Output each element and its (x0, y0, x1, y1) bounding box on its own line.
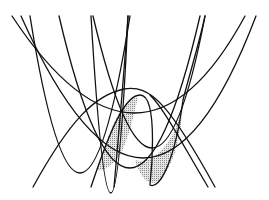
parabola-wide (12, 16, 245, 113)
shade-left (97, 97, 138, 170)
steep-right-2 (114, 16, 128, 187)
shaded-regions (97, 97, 183, 183)
diagram-canvas (0, 0, 269, 200)
